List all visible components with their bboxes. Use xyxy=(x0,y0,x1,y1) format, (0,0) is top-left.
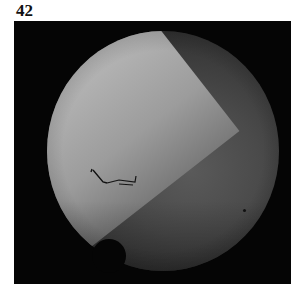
scope-notch xyxy=(92,239,126,273)
image-frame xyxy=(14,21,291,284)
arrow-icon xyxy=(89,168,139,194)
figure-number: 42 xyxy=(16,2,33,20)
endoscopic-view xyxy=(47,31,279,271)
vignette xyxy=(47,31,279,271)
star-marker xyxy=(243,209,246,212)
